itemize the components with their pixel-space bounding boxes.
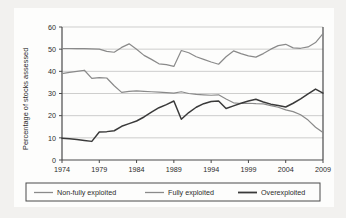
y-tick-label: 0 xyxy=(52,156,56,165)
legend-label-1: Fully exploited xyxy=(168,188,214,197)
x-tick-label: 1984 xyxy=(129,165,145,174)
x-tick-label: 1994 xyxy=(203,165,219,174)
y-tick-label: 20 xyxy=(48,111,56,120)
y-tick-label: 40 xyxy=(48,67,56,76)
x-tick-label: 1974 xyxy=(54,165,70,174)
series-line-overexploited xyxy=(62,89,323,141)
y-axis-title: Percentage of stocks assessed xyxy=(21,48,30,150)
chart-legend: Non-fully exploitedFully exploitedOverex… xyxy=(26,183,320,201)
y-tick-label: 30 xyxy=(48,89,56,98)
x-tick-label: 1989 xyxy=(166,165,182,174)
line-chart: Percentage of stocks assessed 0102030405… xyxy=(0,0,346,218)
series-line-fully-exploited xyxy=(62,34,323,67)
data-series-group xyxy=(62,34,323,142)
gridlines xyxy=(62,27,323,138)
y-axis-ticks: 0102030405060 xyxy=(48,23,62,165)
y-tick-label: 10 xyxy=(48,134,56,143)
y-tick-label: 50 xyxy=(48,45,56,54)
legend-label-0: Non-fully exploited xyxy=(57,188,116,197)
x-tick-label: 1979 xyxy=(91,165,107,174)
series-line-non-fully-exploited xyxy=(62,70,323,132)
x-axis-ticks: 19741979198419891994199920042009 xyxy=(54,160,331,174)
chart-figure: Percentage of stocks assessed 0102030405… xyxy=(0,0,346,218)
x-tick-label: 2009 xyxy=(315,165,331,174)
legend-label-2: Overexploited xyxy=(261,188,305,197)
y-tick-label: 60 xyxy=(48,23,56,32)
x-tick-label: 1999 xyxy=(240,165,256,174)
x-tick-label: 2004 xyxy=(278,165,294,174)
